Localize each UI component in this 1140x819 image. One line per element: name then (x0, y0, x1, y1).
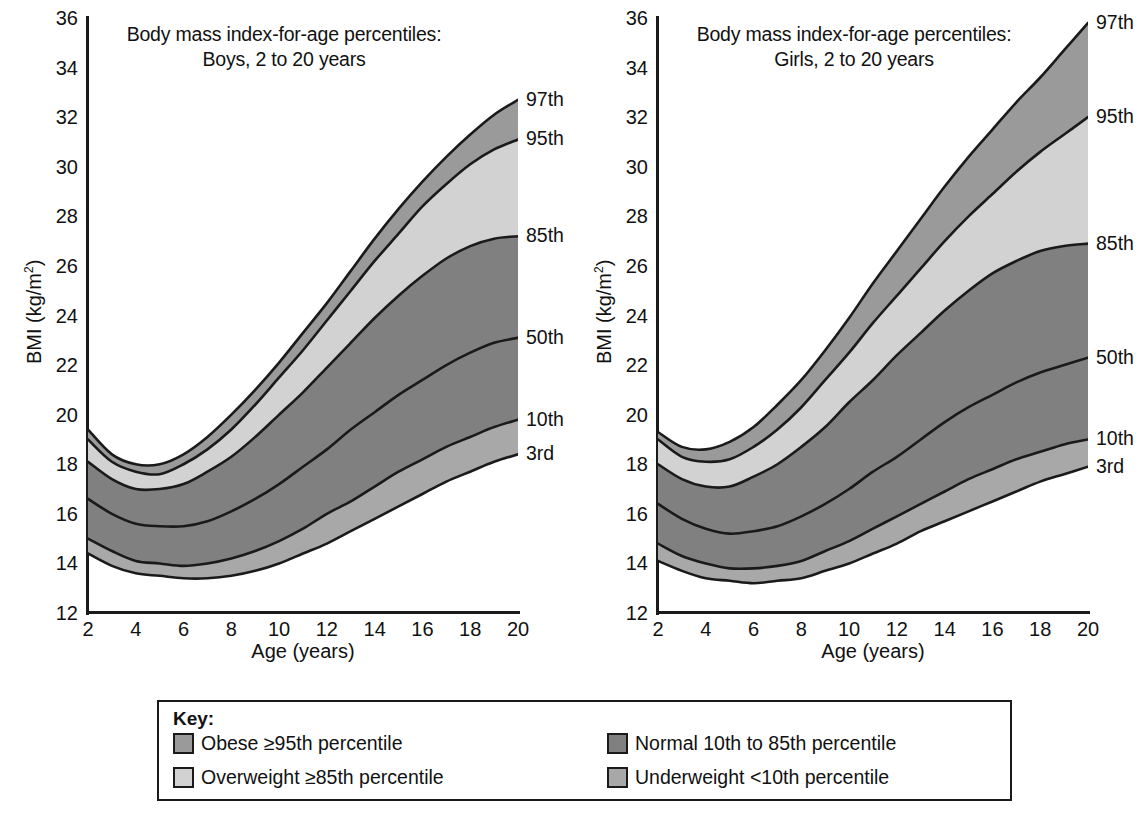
x-tick-label-2: 2 (68, 618, 108, 641)
x-tick-label-16: 16 (402, 618, 442, 641)
x-tick-label-8: 8 (781, 618, 821, 641)
x-tick-label-20: 20 (498, 618, 538, 641)
x-axis-label-boys: Age (years) (88, 640, 518, 663)
percentile-bands-boys (88, 18, 518, 613)
x-axis-label-girls: Age (years) (658, 640, 1088, 663)
x-tick-label-6: 6 (164, 618, 204, 641)
key-legend-box: Key: Obese ≥95th percentile Overweight ≥… (157, 700, 1012, 801)
percentile-label-85th: 85th (526, 226, 564, 246)
key-label-overweight: Overweight ≥85th percentile (201, 767, 444, 788)
percentile-label-97th: 97th (1096, 13, 1134, 33)
key-item-normal: Normal 10th to 85th percentile (607, 733, 896, 754)
key-swatch-normal (607, 733, 628, 754)
y-tick-label-28: 28 (594, 206, 648, 226)
plot-area-boys (88, 18, 518, 613)
x-tick-label-20: 20 (1068, 618, 1108, 641)
percentile-label-3rd: 3rd (526, 444, 554, 464)
y-tick-label-16: 16 (24, 504, 78, 524)
y-tick-label-32: 32 (594, 107, 648, 127)
key-title: Key: (173, 708, 214, 730)
x-tick-label-6: 6 (734, 618, 774, 641)
plot-area-girls (658, 18, 1088, 613)
key-item-underweight: Underweight <10th percentile (607, 767, 889, 788)
y-tick-label-32: 32 (24, 107, 78, 127)
key-swatch-underweight (607, 767, 628, 788)
y-tick-label-26: 26 (24, 256, 78, 276)
x-tick-label-2: 2 (638, 618, 678, 641)
y-tick-label-16: 16 (594, 504, 648, 524)
y-tick-label-34: 34 (594, 58, 648, 78)
x-tick-label-14: 14 (925, 618, 965, 641)
y-tick-label-24: 24 (594, 306, 648, 326)
x-tick-label-4: 4 (116, 618, 156, 641)
x-tick-label-14: 14 (355, 618, 395, 641)
band-10th-85th (88, 236, 518, 566)
y-tick-label-30: 30 (24, 157, 78, 177)
key-label-obese: Obese ≥95th percentile (201, 733, 403, 754)
x-tick-label-18: 18 (450, 618, 490, 641)
y-tick-label-14: 14 (594, 553, 648, 573)
y-tick-label-14: 14 (24, 553, 78, 573)
x-tick-label-12: 12 (877, 618, 917, 641)
y-tick-label-24: 24 (24, 306, 78, 326)
y-tick-label-20: 20 (594, 405, 648, 425)
key-item-overweight: Overweight ≥85th percentile (173, 767, 444, 788)
y-tick-label-36: 36 (24, 8, 78, 28)
x-tick-label-10: 10 (259, 618, 299, 641)
y-tick-label-34: 34 (24, 58, 78, 78)
key-item-obese: Obese ≥95th percentile (173, 733, 403, 754)
y-tick-label-28: 28 (24, 206, 78, 226)
percentile-bands-girls (658, 18, 1088, 613)
y-tick-label-20: 20 (24, 405, 78, 425)
y-axis-ticks-girls: 12141618202224262830323436 (570, 0, 648, 680)
x-tick-label-4: 4 (686, 618, 726, 641)
key-label-normal: Normal 10th to 85th percentile (635, 733, 896, 754)
y-tick-label-26: 26 (594, 256, 648, 276)
y-tick-label-18: 18 (24, 454, 78, 474)
y-tick-label-18: 18 (594, 454, 648, 474)
percentile-label-50th: 50th (526, 328, 564, 348)
percentile-label-50th: 50th (1096, 348, 1134, 368)
percentile-label-85th: 85th (1096, 234, 1134, 254)
chart-panel-girls: Body mass index-for-age percentiles: Gir… (570, 0, 1140, 680)
x-tick-label-12: 12 (307, 618, 347, 641)
chart-panel-boys: Body mass index-for-age percentiles: Boy… (0, 0, 570, 680)
y-axis-ticks-boys: 12141618202224262830323436 (0, 0, 78, 680)
percentile-label-10th: 10th (526, 410, 564, 430)
x-tick-label-8: 8 (211, 618, 251, 641)
percentile-label-3rd: 3rd (1096, 457, 1124, 477)
x-tick-label-18: 18 (1020, 618, 1060, 641)
y-tick-label-22: 22 (24, 355, 78, 375)
y-tick-label-30: 30 (594, 157, 648, 177)
percentile-label-95th: 95th (526, 129, 564, 149)
percentile-label-95th: 95th (1096, 107, 1134, 127)
y-tick-label-22: 22 (594, 355, 648, 375)
percentile-label-10th: 10th (1096, 429, 1134, 449)
percentile-label-97th: 97th (526, 90, 564, 110)
key-swatch-overweight (173, 767, 194, 788)
x-tick-label-10: 10 (829, 618, 869, 641)
key-swatch-obese (173, 733, 194, 754)
y-tick-label-36: 36 (594, 8, 648, 28)
x-tick-label-16: 16 (972, 618, 1012, 641)
key-label-underweight: Underweight <10th percentile (635, 767, 889, 788)
